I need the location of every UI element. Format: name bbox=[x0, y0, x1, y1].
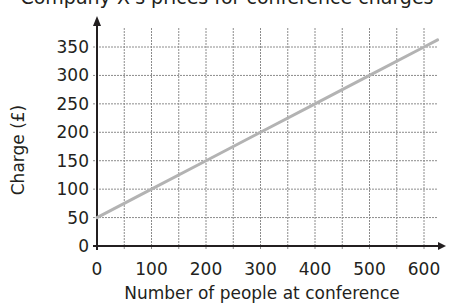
y-tick-label: 200 bbox=[57, 122, 89, 142]
data-line bbox=[97, 40, 438, 218]
x-tick-label: 400 bbox=[299, 259, 331, 279]
plot-area: 0501001502002503003500100200300400500600 bbox=[0, 0, 454, 306]
x-tick-label: 100 bbox=[135, 259, 167, 279]
y-tick-label: 350 bbox=[57, 37, 89, 57]
x-tick-label: 500 bbox=[353, 259, 385, 279]
x-tick-label: 200 bbox=[190, 259, 222, 279]
y-tick-label: 0 bbox=[78, 236, 89, 256]
x-tick-label: 300 bbox=[244, 259, 276, 279]
y-tick-label: 100 bbox=[57, 179, 89, 199]
y-tick-label: 300 bbox=[57, 65, 89, 85]
y-axis-arrow-icon bbox=[93, 16, 101, 26]
x-tick-label: 600 bbox=[408, 259, 440, 279]
y-axis-label: Charge (£) bbox=[8, 105, 28, 196]
y-tick-label: 150 bbox=[57, 151, 89, 171]
chart: Company X's prices for conference charge… bbox=[0, 0, 454, 306]
y-tick-label: 250 bbox=[57, 94, 89, 114]
x-axis-label: Number of people at conference bbox=[124, 283, 400, 303]
x-axis-arrow-icon bbox=[438, 242, 446, 250]
y-tick-label: 50 bbox=[67, 208, 89, 228]
chart-title: Company X's prices for conference charge… bbox=[0, 0, 454, 8]
x-tick-label: 0 bbox=[92, 259, 103, 279]
